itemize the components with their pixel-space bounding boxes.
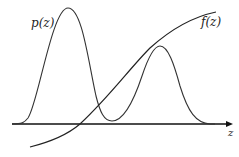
function-curve-f [30,12,216,147]
density-label: p(z) [31,16,55,30]
function-label: f(z) [200,15,221,29]
axis-label: z [227,127,234,138]
diagram-canvas: p(z) f(z) z [0,0,239,157]
